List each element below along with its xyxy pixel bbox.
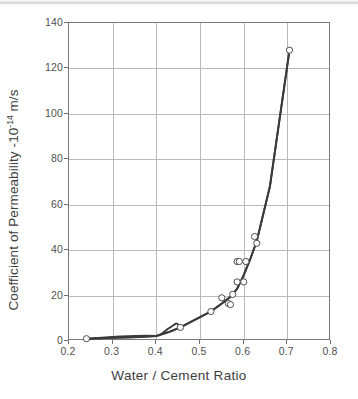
tickmark-x-0.7 (286, 340, 287, 344)
tickmark-x-0.3 (112, 340, 113, 344)
ytick-label-140: 140 (36, 16, 63, 28)
y-axis-label-exponent: -14 (5, 115, 15, 127)
data-point (234, 279, 240, 285)
data-point (83, 336, 89, 342)
tickmark-x-0.6 (243, 340, 244, 344)
data-point (177, 324, 183, 330)
y-axis-label-text: Coefficient of Permeability -10 (6, 127, 21, 310)
xtick-label-0.5: 0.5 (185, 345, 213, 357)
xtick-label-0.7: 0.7 (272, 345, 300, 357)
ytick-label-60: 60 (36, 198, 63, 210)
tickmark-y-120 (64, 67, 68, 68)
data-point (252, 233, 258, 239)
tickmark-x-0.2 (68, 340, 69, 344)
x-axis-label: Water / Cement Ratio (0, 368, 358, 383)
data-point (241, 279, 247, 285)
trend-curve (87, 50, 290, 339)
data-point (243, 258, 249, 264)
data-series-layer (69, 23, 331, 341)
trend-curve-smooth (87, 50, 290, 339)
xtick-label-0.8: 0.8 (316, 345, 344, 357)
y-axis-label-container: Coefficient of Permeability -10-14 m/s (0, 0, 28, 399)
tickmark-x-0.5 (199, 340, 200, 344)
xtick-label-0.6: 0.6 (229, 345, 257, 357)
xtick-label-0.3: 0.3 (98, 345, 126, 357)
tickmark-y-100 (64, 113, 68, 114)
data-point (286, 47, 292, 53)
data-point (219, 295, 225, 301)
plot-area (68, 22, 330, 340)
data-point (230, 291, 236, 297)
y-axis-label: Coefficient of Permeability -10-14 m/s (5, 89, 22, 310)
permeability-chart-figure: Coefficient of Permeability -10-14 m/s (0, 0, 358, 399)
tickmark-y-80 (64, 158, 68, 159)
y-axis-label-unit: m/s (6, 89, 21, 115)
data-point (208, 308, 214, 314)
data-point (236, 258, 242, 264)
tickmark-y-140 (64, 22, 68, 23)
ytick-label-80: 80 (36, 152, 63, 164)
xtick-label-0.4: 0.4 (141, 345, 169, 357)
tickmark-x-0.4 (155, 340, 156, 344)
tickmark-y-40 (64, 249, 68, 250)
tickmark-x-0.8 (330, 340, 331, 344)
data-point (227, 302, 233, 308)
tickmark-y-60 (64, 204, 68, 205)
tickmark-y-20 (64, 295, 68, 296)
xtick-label-0.2: 0.2 (54, 345, 82, 357)
ytick-label-40: 40 (36, 243, 63, 255)
ytick-label-100: 100 (36, 107, 63, 119)
data-point (254, 240, 260, 246)
ytick-label-120: 120 (36, 61, 63, 73)
ytick-label-20: 20 (36, 289, 63, 301)
